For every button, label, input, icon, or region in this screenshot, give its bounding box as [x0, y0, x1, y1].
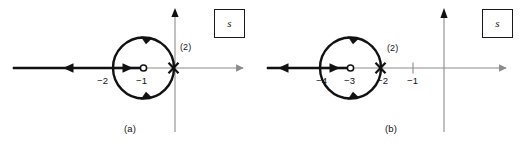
imaginary-axis-arrowhead-a: [171, 8, 178, 17]
pole-multiplicity-label-a: (2): [180, 43, 191, 52]
axis-tick-label: −3: [344, 76, 355, 86]
imaginary-axis-arrowhead-b: [440, 8, 447, 18]
s-plane-label-b: s: [495, 18, 499, 29]
s-plane-box-b: s: [482, 9, 513, 38]
locus-arrow-left-a: [63, 63, 74, 73]
axis-tick-label: −2: [97, 76, 108, 86]
open-loop-zero-marker-b: [347, 65, 353, 71]
axis-tick-label: −2: [377, 76, 388, 86]
locus-arrow-inner-b: [330, 63, 341, 73]
axis-tick-label: −1: [136, 76, 147, 86]
s-plane-box-a: s: [214, 9, 245, 38]
s-plane-label-a: s: [227, 18, 231, 29]
root-locus-figure: −2 −1 (2) (a) s: [0, 0, 522, 143]
locus-arrow-inner-a: [123, 63, 134, 73]
locus-arrow-left-b: [278, 63, 289, 73]
panel-caption-a: (a): [124, 124, 136, 134]
pole-multiplicity-label-b: (2): [387, 44, 398, 53]
open-loop-zero-marker-a: [140, 65, 146, 71]
root-locus-panel-a: −2 −1 (2) (a) s: [0, 0, 261, 143]
axis-tick-label: −4: [316, 76, 327, 86]
panel-caption-b: (b): [385, 124, 397, 134]
root-locus-panel-b: −4 −3 −2 −1 (2) (b) s: [261, 0, 522, 143]
axis-tick-label: −1: [407, 76, 418, 86]
